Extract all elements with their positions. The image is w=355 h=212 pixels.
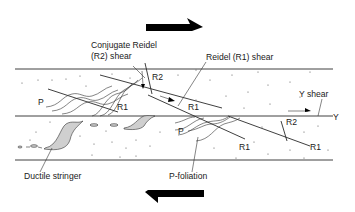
label-p-lower: P xyxy=(178,126,184,136)
stringer-lens xyxy=(110,124,118,127)
leader-conjugate-reidel xyxy=(133,66,145,78)
y-offset-arrow xyxy=(288,108,311,112)
p-foliation-lower xyxy=(175,117,240,141)
label-p-upper: P xyxy=(38,97,44,107)
ductile-stringers xyxy=(18,116,155,150)
top-shear-arrow xyxy=(146,18,203,31)
bottom-shear-arrow xyxy=(145,190,204,203)
label-reidel-r1-shear: Reidel (R1) shear xyxy=(206,52,273,62)
stringer-lens xyxy=(31,145,38,148)
label-r1-c: R1 xyxy=(239,142,250,152)
r2-shear-line xyxy=(145,63,152,94)
arrow-right-icon xyxy=(146,18,203,31)
shear-zone-diagram: Conjugate Reidel (R2) shear Reidel (R1) … xyxy=(0,0,355,212)
stringer-medium xyxy=(124,116,155,130)
label-y-shear: Y shear xyxy=(299,89,329,99)
leader-p-foliation xyxy=(192,137,198,172)
label-r1-d: R1 xyxy=(310,142,321,152)
label-conjugate-reidel-r2: (R2) shear xyxy=(91,51,132,61)
label-r1-a: R1 xyxy=(117,102,128,112)
label-p-foliation: P-foliation xyxy=(169,171,207,181)
label-conjugate-reidel: Conjugate Reidel xyxy=(91,40,157,50)
label-r2-lower: R2 xyxy=(286,117,297,127)
label-r2-upper: R2 xyxy=(152,72,163,82)
label-y: Y xyxy=(333,112,339,122)
matrix-stipple xyxy=(21,69,328,158)
stringer-large xyxy=(44,121,83,150)
arrow-left-icon xyxy=(145,190,204,203)
stringer-lens xyxy=(90,124,98,127)
stringer-lens xyxy=(18,146,22,148)
label-ductile-stringer: Ductile stringer xyxy=(24,171,81,181)
leader-y-shear xyxy=(318,99,322,116)
label-r1-b: R1 xyxy=(188,102,199,112)
